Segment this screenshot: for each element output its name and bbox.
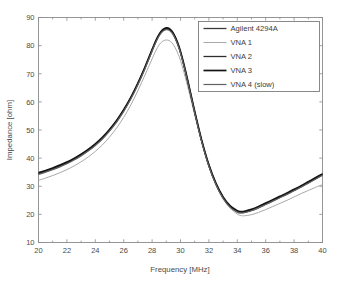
x-tick-label: 30: [176, 246, 184, 255]
x-tick-label: 36: [262, 246, 270, 255]
y-tick-label: 80: [26, 41, 34, 50]
y-tick-label: 40: [26, 154, 34, 163]
legend-label: VNA 2: [231, 52, 253, 61]
legend-label: VNA 4 (slow): [231, 80, 275, 89]
y-tick-label: 70: [26, 70, 34, 79]
y-tick-label: 20: [26, 210, 34, 219]
legend-label: VNA 1: [231, 38, 253, 47]
chart-legend[interactable]: Agilent 4294AVNA 1VNA 2VNA 3VNA 4 (slow): [199, 22, 320, 92]
y-axis-title: Impedance [ohm]: [5, 100, 14, 160]
y-tick-label: 60: [26, 98, 34, 107]
x-axis-title: Frequency [MHz]: [150, 265, 209, 274]
legend-label: VNA 3: [231, 66, 253, 75]
y-tick-label: 50: [26, 126, 34, 135]
x-tick-label: 22: [63, 246, 71, 255]
y-tick-label: 10: [26, 238, 34, 247]
x-tick-label: 26: [120, 246, 128, 255]
legend-label: Agilent 4294A: [231, 24, 279, 33]
impedance-frequency-chart: 2022242628303234363840 10203040506070809…: [0, 0, 339, 284]
x-tick-label: 24: [91, 246, 99, 255]
x-tick-label: 28: [148, 246, 156, 255]
y-tick-label: 90: [26, 13, 34, 22]
x-tick-label: 40: [318, 246, 326, 255]
y-tick-labels: 102030405060708090: [26, 13, 34, 247]
y-tick-label: 30: [26, 182, 34, 191]
x-tick-label: 38: [290, 246, 298, 255]
x-tick-label: 34: [233, 246, 241, 255]
x-tick-label: 32: [205, 246, 213, 255]
x-tick-label: 20: [34, 246, 42, 255]
chart-figure: 2022242628303234363840 10203040506070809…: [0, 0, 339, 284]
